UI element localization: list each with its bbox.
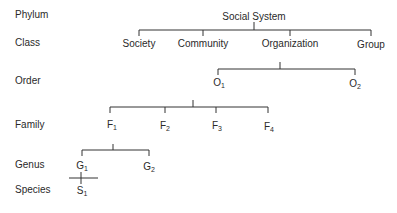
node-class-organization: Organization: [262, 38, 319, 50]
node-genus-2: G2: [143, 161, 155, 176]
node-genus-1: G1: [76, 160, 88, 175]
node-species-1: S1: [77, 185, 88, 200]
rank-label-phylum: Phylum: [15, 9, 48, 21]
node-class-community: Community: [178, 38, 229, 50]
rank-label-class: Class: [15, 37, 40, 49]
node-class-society: Society: [123, 38, 156, 50]
node-order-2: O2: [349, 78, 361, 93]
node-family-3: F3: [212, 120, 222, 135]
node-order-1: O1: [213, 77, 225, 92]
taxonomy-diagram: Phylum Class Order Family Genus Species …: [0, 0, 397, 213]
rank-label-family: Family: [15, 119, 44, 131]
rank-label-species: Species: [15, 184, 51, 196]
rank-label-order: Order: [15, 75, 41, 87]
node-root: Social System: [222, 11, 285, 23]
rank-label-genus: Genus: [15, 159, 44, 171]
node-class-group: Group: [357, 39, 385, 51]
node-family-4: F4: [264, 121, 274, 136]
node-family-2: F2: [160, 120, 170, 135]
node-family-1: F1: [107, 119, 117, 134]
connector-lines: [0, 0, 397, 213]
